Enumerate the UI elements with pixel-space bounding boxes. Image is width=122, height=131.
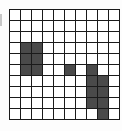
grid-cell[interactable]: [32, 109, 42, 119]
grid-cell[interactable]: [65, 32, 75, 42]
grid-cell[interactable]: [109, 43, 119, 53]
grid-cell[interactable]: [76, 76, 86, 86]
grid-cell[interactable]: [76, 43, 86, 53]
grid-cell-filled[interactable]: [98, 87, 108, 97]
grid-cell[interactable]: [87, 32, 97, 42]
grid-cell[interactable]: [76, 98, 86, 108]
grid-cell[interactable]: [10, 54, 20, 64]
grid-cell[interactable]: [32, 32, 42, 42]
grid-cell[interactable]: [10, 32, 20, 42]
grid-cell[interactable]: [76, 109, 86, 119]
grid-cell[interactable]: [21, 76, 31, 86]
grid-cell[interactable]: [87, 10, 97, 20]
grid-cell[interactable]: [54, 98, 64, 108]
grid-cell[interactable]: [10, 21, 20, 31]
grid-cell-filled[interactable]: [98, 98, 108, 108]
grid-cell[interactable]: [32, 10, 42, 20]
grid-cell[interactable]: [65, 21, 75, 31]
grid-cell[interactable]: [43, 10, 53, 20]
grid-cell[interactable]: [76, 10, 86, 20]
grid-cell-filled[interactable]: [21, 65, 31, 75]
grid-cell[interactable]: [54, 21, 64, 31]
grid-cell-filled[interactable]: [65, 65, 75, 75]
grid-cell[interactable]: [32, 21, 42, 31]
grid-cell[interactable]: [43, 87, 53, 97]
grid-cell[interactable]: [10, 98, 20, 108]
grid-cell[interactable]: [109, 65, 119, 75]
grid-cell[interactable]: [54, 54, 64, 64]
grid-cell[interactable]: [21, 98, 31, 108]
grid-cell[interactable]: [10, 109, 20, 119]
grid-cell[interactable]: [43, 54, 53, 64]
grid-cell-filled[interactable]: [21, 43, 31, 53]
grid-cell[interactable]: [65, 87, 75, 97]
grid-cell[interactable]: [54, 76, 64, 86]
grid-cell-filled[interactable]: [32, 65, 42, 75]
grid-cell[interactable]: [98, 21, 108, 31]
grid-cell[interactable]: [43, 76, 53, 86]
grid-cell[interactable]: [98, 54, 108, 64]
grid-cell-filled[interactable]: [87, 98, 97, 108]
grid-cell[interactable]: [98, 32, 108, 42]
grid-cell[interactable]: [87, 43, 97, 53]
grid-cell[interactable]: [76, 32, 86, 42]
grid-cell[interactable]: [43, 32, 53, 42]
grid-cell[interactable]: [98, 10, 108, 20]
grid-cell[interactable]: [109, 76, 119, 86]
grid-cell[interactable]: [43, 65, 53, 75]
grid-cell[interactable]: [65, 54, 75, 64]
grid-cell-filled[interactable]: [32, 54, 42, 64]
grid-cell[interactable]: [21, 10, 31, 20]
grid-cell[interactable]: [43, 43, 53, 53]
grid-cell[interactable]: [43, 21, 53, 31]
grid-cell[interactable]: [54, 65, 64, 75]
grid-cell[interactable]: [10, 76, 20, 86]
grid-cell[interactable]: [54, 10, 64, 20]
grid-cell[interactable]: [10, 10, 20, 20]
grid-cell[interactable]: [109, 10, 119, 20]
grid-cell[interactable]: [21, 32, 31, 42]
grid-cell[interactable]: [54, 109, 64, 119]
grid-cell[interactable]: [32, 76, 42, 86]
grid-cell[interactable]: [54, 43, 64, 53]
grid-cell[interactable]: [98, 43, 108, 53]
grid-cell[interactable]: [76, 54, 86, 64]
grid-cell[interactable]: [21, 109, 31, 119]
grid-cell[interactable]: [21, 87, 31, 97]
grid-cell[interactable]: [76, 87, 86, 97]
grid-cell[interactable]: [65, 109, 75, 119]
grid-cell-filled[interactable]: [32, 43, 42, 53]
grid-cell-filled[interactable]: [21, 54, 31, 64]
grid-cell[interactable]: [10, 65, 20, 75]
grid-cell[interactable]: [76, 65, 86, 75]
grid-cell[interactable]: [43, 109, 53, 119]
grid-cell[interactable]: [32, 87, 42, 97]
grid-cell[interactable]: [76, 21, 86, 31]
grid-cell-filled[interactable]: [98, 76, 108, 86]
grid-cell[interactable]: [109, 98, 119, 108]
grid-cell[interactable]: [109, 21, 119, 31]
grid-cell[interactable]: [21, 21, 31, 31]
grid-cell[interactable]: [54, 32, 64, 42]
grid-cell-filled[interactable]: [98, 109, 108, 119]
grid-cell[interactable]: [65, 98, 75, 108]
grid-cell[interactable]: [87, 21, 97, 31]
grid-cell-filled[interactable]: [87, 87, 97, 97]
grid-cell[interactable]: [65, 76, 75, 86]
grid-cell[interactable]: [109, 109, 119, 119]
grid-cell[interactable]: [109, 54, 119, 64]
grid-cell[interactable]: [87, 109, 97, 119]
grid-cell[interactable]: [10, 87, 20, 97]
grid-cell[interactable]: [109, 87, 119, 97]
puzzle-grid[interactable]: [9, 9, 120, 120]
grid-cell[interactable]: [43, 98, 53, 108]
grid-cell[interactable]: [32, 98, 42, 108]
grid-cell[interactable]: [65, 43, 75, 53]
grid-cell[interactable]: [65, 10, 75, 20]
grid-cell[interactable]: [109, 32, 119, 42]
grid-cell[interactable]: [54, 87, 64, 97]
grid-cell[interactable]: [98, 65, 108, 75]
grid-cell-filled[interactable]: [87, 65, 97, 75]
grid-cell[interactable]: [10, 43, 20, 53]
grid-cell-filled[interactable]: [87, 76, 97, 86]
